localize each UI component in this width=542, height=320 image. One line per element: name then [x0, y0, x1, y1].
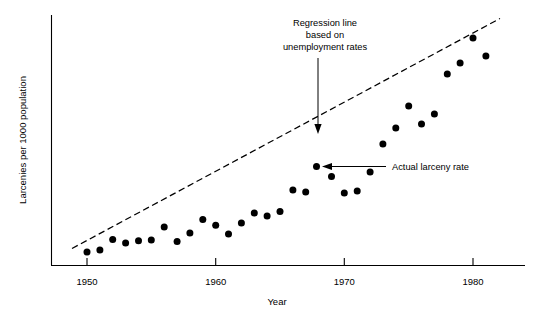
x-tick-label-1980: 1980: [462, 276, 483, 287]
data-point: [109, 236, 116, 243]
data-point: [431, 111, 438, 118]
regression-annotation-arrow-head: [314, 124, 321, 134]
regression-annotation-line3: unemployment rates: [283, 42, 368, 52]
regression-line-annotation: Regression line based on unemployment ra…: [283, 18, 368, 134]
data-point: [148, 237, 155, 244]
data-point: [186, 230, 193, 237]
x-axis-tick-labels: 1950 1960 1970 1980: [76, 276, 483, 287]
data-point: [289, 187, 296, 194]
actual-larceny-annotation-label: Actual larceny rate: [392, 162, 469, 172]
data-point: [84, 249, 91, 256]
data-point: [122, 240, 129, 247]
data-point: [379, 141, 386, 148]
actual-larceny-rate-annotation: Actual larceny rate: [322, 162, 469, 172]
x-axis-ticks: [87, 258, 473, 266]
larceny-rate-scatter-chart: 1950 1960 1970 1980 Year Larcenies per 1…: [0, 0, 542, 320]
data-point: [418, 121, 425, 128]
data-point: [174, 238, 181, 245]
data-point: [264, 213, 271, 220]
actual-larceny-annotation-arrow-head: [322, 163, 332, 170]
data-point: [328, 173, 335, 180]
data-point: [367, 169, 374, 176]
data-point: [225, 231, 232, 238]
data-point-actual-larceny-annotated: [313, 163, 320, 170]
chart-svg: 1950 1960 1970 1980 Year Larcenies per 1…: [0, 0, 542, 320]
x-axis-title: Year: [267, 296, 286, 307]
data-point: [199, 216, 206, 223]
x-tick-label-1960: 1960: [205, 276, 226, 287]
data-point: [470, 35, 477, 42]
data-point: [238, 220, 245, 227]
data-point: [302, 189, 309, 196]
axis-frame: [51, 15, 525, 266]
data-point-group: [84, 35, 490, 256]
regression-annotation-line2: based on: [306, 30, 344, 40]
regression-line: [72, 19, 500, 249]
data-point: [354, 188, 361, 195]
data-point: [482, 53, 489, 60]
data-point: [96, 247, 103, 254]
data-point: [251, 210, 258, 217]
data-point: [405, 103, 412, 110]
x-tick-label-1950: 1950: [76, 276, 97, 287]
data-point: [457, 60, 464, 67]
data-point: [444, 71, 451, 78]
data-point: [212, 222, 219, 229]
data-point: [341, 190, 348, 197]
regression-annotation-line1: Regression line: [293, 18, 357, 28]
data-point: [277, 208, 284, 215]
data-point: [135, 237, 142, 244]
data-point: [161, 224, 168, 231]
y-axis-title: Larcenies per 1000 population: [17, 76, 28, 204]
x-tick-label-1970: 1970: [334, 276, 355, 287]
data-point: [392, 125, 399, 132]
